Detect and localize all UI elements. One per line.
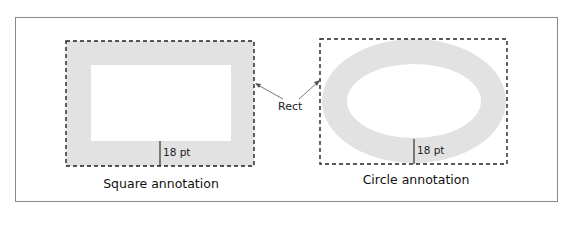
square-annotation: [66, 41, 254, 166]
circle-interior: [347, 64, 481, 138]
rect-pointers: [255, 80, 320, 99]
circle-annotation: [320, 39, 507, 164]
square-width-label: 18 pt: [163, 146, 190, 158]
square-interior: [91, 65, 231, 141]
circle-width-label: 18 pt: [417, 144, 444, 156]
arrowhead-left-icon: [255, 83, 261, 88]
square-caption: Square annotation: [103, 176, 219, 191]
rect-label: Rect: [278, 100, 302, 113]
circle-caption: Circle annotation: [363, 172, 470, 187]
